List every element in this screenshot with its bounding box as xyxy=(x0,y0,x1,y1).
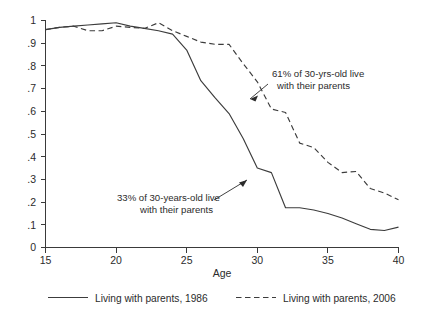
annotation-2006-arrow-head xyxy=(250,96,258,102)
y-tick-label-7: .7 xyxy=(27,82,36,94)
x-tick-label-25: 25 xyxy=(181,254,193,266)
chart-svg: 0 .1 .2 .3 .4 .5 .6 .7 .8 .9 1 15 20 25 … xyxy=(0,0,425,318)
y-tick-label-6: .6 xyxy=(27,105,36,117)
x-tick-label-20: 20 xyxy=(110,254,122,266)
chart-legend: Living with parents, 1986 Living with pa… xyxy=(48,293,396,304)
plot-lines xyxy=(46,23,399,231)
y-tick-label-10: 1 xyxy=(30,14,36,26)
annotation-2006-line1: 61% of 30-yrs-old live xyxy=(272,68,364,79)
y-tick-label-1: .1 xyxy=(27,219,36,231)
y-tick-label-8: .8 xyxy=(27,60,36,72)
annotation-1986-line1: 33% of 30-years-old live xyxy=(117,192,220,203)
legend-label-1986: Living with parents, 1986 xyxy=(95,293,208,304)
y-axis: 0 .1 .2 .3 .4 .5 .6 .7 .8 .9 1 xyxy=(27,14,45,253)
annotation-1986: 33% of 30-years-old live with their pare… xyxy=(117,180,247,215)
y-tick-label-5: .5 xyxy=(27,128,36,140)
x-tick-label-40: 40 xyxy=(393,254,405,266)
legend-label-2006: Living with parents, 2006 xyxy=(283,293,396,304)
chart-figure: 0 .1 .2 .3 .4 .5 .6 .7 .8 .9 1 15 20 25 … xyxy=(0,0,425,318)
annotation-1986-arrow-head xyxy=(239,180,247,187)
annotation-1986-line2: with their parents xyxy=(139,204,213,215)
x-tick-label-30: 30 xyxy=(251,254,263,266)
y-tick-label-3: .3 xyxy=(27,173,36,185)
annotation-2006-line2: with their parents xyxy=(276,80,350,91)
y-tick-label-4: .4 xyxy=(27,151,36,163)
series-line-2006 xyxy=(46,23,399,200)
y-tick-label-2: .2 xyxy=(27,196,36,208)
series-line-1986 xyxy=(46,23,399,231)
x-tick-label-35: 35 xyxy=(322,254,334,266)
x-axis: 15 20 25 30 35 40 Age xyxy=(40,248,405,280)
y-tick-label-0: 0 xyxy=(30,241,36,253)
y-tick-label-9: .9 xyxy=(27,37,36,49)
x-tick-label-15: 15 xyxy=(40,254,52,266)
x-axis-title: Age xyxy=(213,267,232,279)
annotation-2006: 61% of 30-yrs-old live with their parent… xyxy=(250,68,364,102)
